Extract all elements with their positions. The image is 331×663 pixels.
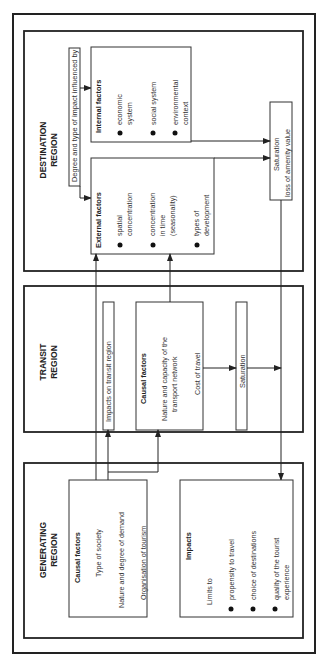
svg-text:(seasonality): (seasonality) [168,195,177,236]
svg-text:GENERATING: GENERATING [38,522,48,578]
transit-causal-item: Nature and capacity of the [160,337,169,421]
svg-text:social system: social system [149,82,158,125]
generating-impact-item: propensity to travel [227,539,236,612]
svg-text:REGION: REGION [49,345,59,379]
internal-factors-title: Internal factors [94,80,103,133]
svg-text:spatial: spatial [115,215,124,236]
generating-impact-item: choice of destinations [249,530,258,611]
svg-text:choice of destinations: choice of destinations [249,530,258,600]
svg-text:context: context [181,102,190,125]
svg-text:DESTINATION: DESTINATION [38,122,48,179]
generating-impacts-title: Impacts [184,532,193,560]
generating-causal-item: Organisation of tourism [139,526,148,600]
svg-text:system: system [125,102,134,125]
svg-text:environmental: environmental [171,79,180,125]
transit-saturation-label: Saturation [238,354,247,388]
generating-causal-item: Nature and degree of demand [117,512,126,608]
transit-impacts-label: Impacts on transit region [104,341,113,422]
generating-causal-item: Type of society [94,529,103,577]
svg-text:quality of the tourist: quality of the tourist [272,538,281,600]
transit-causal-factors-title: Causal factors [139,353,148,404]
svg-text:experience: experience [282,565,291,600]
svg-text:propensity to travel: propensity to travel [227,539,236,600]
external-factors-title: External factors [94,192,103,248]
transit-causal-item: transport network [170,356,179,412]
generating-causal-factors-title: Causal factors [73,532,82,583]
transit-region-title: TRANSIT REGION [38,343,59,381]
tourism-impact-diagram: DESTINATION REGION Degree and type of im… [0,0,331,663]
svg-text:TRANSIT: TRANSIT [38,343,48,381]
influence-label: Degree and type of impact influenced by [70,49,79,182]
svg-text:REGION: REGION [49,533,59,567]
svg-text:concentration: concentration [148,193,157,236]
svg-text:economic: economic [115,94,124,125]
generating-region-title: GENERATING REGION [38,522,59,578]
transit-causal-item: Cost of travel [193,352,202,395]
svg-text:types of: types of [192,211,201,236]
generating-impacts-intro: Limits to [205,578,214,605]
svg-text:development: development [202,195,211,236]
destination-saturation-label: Saturation [272,138,281,171]
svg-text:concentration: concentration [125,193,134,236]
svg-text:in time: in time [158,215,167,236]
destination-region-title: DESTINATION REGION [38,122,59,179]
svg-text:REGION: REGION [49,133,59,167]
destination-saturation-sublabel: loss of amenity value [283,129,292,197]
